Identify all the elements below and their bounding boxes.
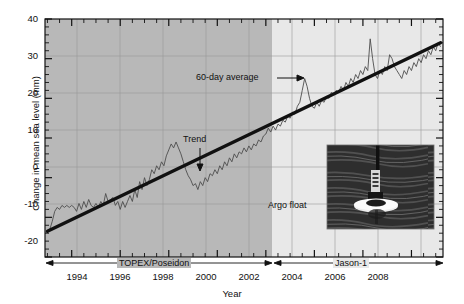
y-tick-label-minus10: -10 [0,198,38,209]
y-tick-label-30: 30 [0,50,38,61]
y-axis-title: Change in mean sea level (mm) [30,49,41,239]
y-tick-label-40: 40 [0,13,38,24]
topex-era-shading [45,19,272,257]
annotation-trend: Trend [183,134,206,144]
x-tick-label-2000: 2000 [188,271,224,282]
x-axis-title: Year [0,288,464,299]
annotation-argo-float: Argo float [268,200,307,210]
y-tick-label-minus20: -20 [0,235,38,246]
x-tick-label-1996: 1996 [102,271,138,282]
y-tick-label-20: 20 [0,87,38,98]
topex-span-right-cap [265,261,272,266]
x-tick-label-2008: 2008 [360,271,396,282]
x-tick-label-1998: 1998 [145,271,181,282]
x-tick-label-2002: 2002 [231,271,267,282]
sea-level-figure: Change in mean sea level (mm) Year 40 30… [0,0,464,304]
x-tick-label-1994: 1994 [59,271,95,282]
y-tick-label-10: 10 [0,124,38,135]
annotation-60-day-average: 60-day average [196,72,259,82]
argo-float-photo [327,145,434,229]
mission-label-jason-1: Jason-1 [333,258,369,268]
y-tick-label-0: 0 [0,161,38,172]
topex-span-left-cap [46,261,53,266]
chart-canvas [0,0,464,304]
mission-label-topex-poseidon: TOPEX/Poseidon [117,258,191,268]
jason-span-right-cap [436,261,443,266]
jason-span-left-cap [274,261,281,266]
mission-span-indicators [46,261,443,266]
x-tick-label-2004: 2004 [274,271,310,282]
x-tick-label-2006: 2006 [317,271,353,282]
